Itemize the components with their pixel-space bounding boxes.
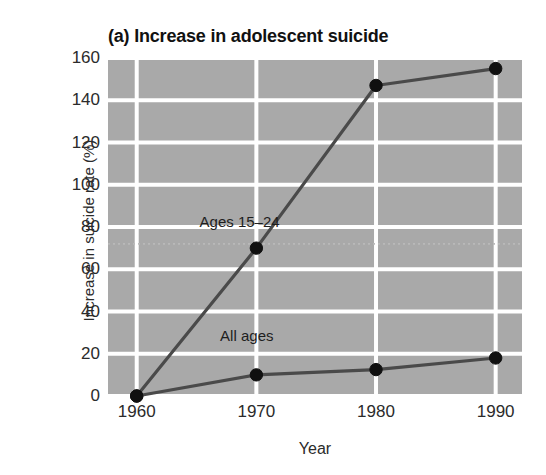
chart-figure: (a) Increase in adolescent suicide Incre… xyxy=(0,0,546,475)
data-point xyxy=(370,363,382,375)
data-point xyxy=(370,79,382,91)
y-tick-label: 140 xyxy=(44,90,100,110)
y-tick-label: 40 xyxy=(44,302,100,322)
plot-area xyxy=(108,58,522,396)
data-point xyxy=(250,242,262,254)
x-tick-label: 1960 xyxy=(118,402,156,422)
series-line-0 xyxy=(137,69,496,396)
series-label-1: All ages xyxy=(220,326,273,343)
y-tick-label: 120 xyxy=(44,133,100,153)
x-tick-label: 1980 xyxy=(357,402,395,422)
chart-title: (a) Increase in adolescent suicide xyxy=(108,26,388,47)
y-tick-label: 160 xyxy=(44,48,100,68)
y-tick-label: 60 xyxy=(44,259,100,279)
data-point xyxy=(489,62,501,74)
y-tick-label: 0 xyxy=(44,386,100,406)
data-series xyxy=(131,62,502,402)
data-point xyxy=(489,352,501,364)
series-line-1 xyxy=(137,358,496,396)
y-axis-tick-labels: 020406080100120140160 xyxy=(40,58,100,396)
x-tick-label: 1990 xyxy=(477,402,515,422)
data-point xyxy=(131,390,143,402)
data-point xyxy=(250,369,262,381)
grid-lines xyxy=(108,58,522,396)
x-axis-title: Year xyxy=(108,440,522,458)
plot-svg xyxy=(108,58,522,396)
y-tick-label: 80 xyxy=(44,217,100,237)
y-tick-label: 100 xyxy=(44,175,100,195)
x-tick-label: 1970 xyxy=(237,402,275,422)
y-tick-label: 20 xyxy=(44,344,100,364)
series-label-0: Ages 15–24 xyxy=(200,212,280,229)
